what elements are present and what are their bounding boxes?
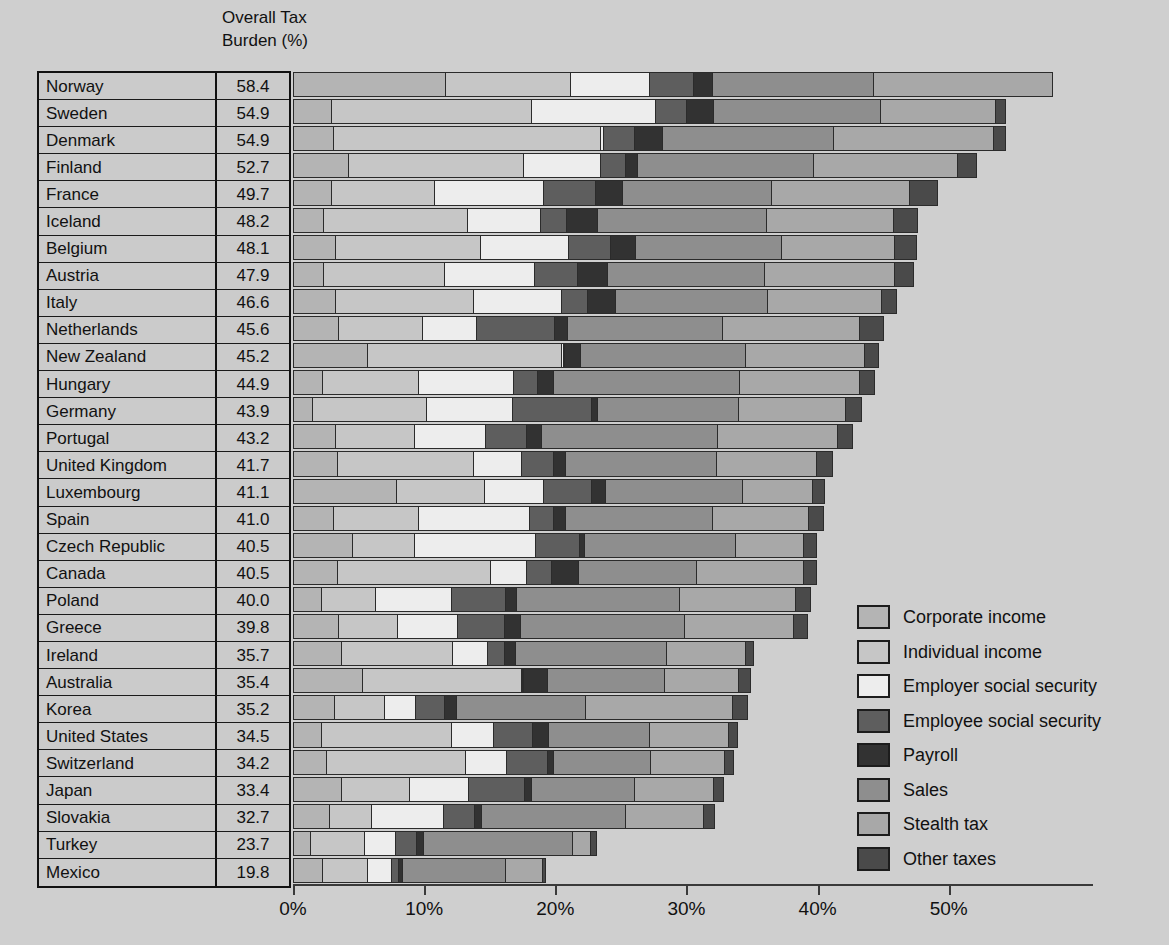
stacked-bar: [293, 641, 753, 666]
bar-segment: [595, 180, 624, 205]
country-name-cell: Denmark: [39, 127, 217, 153]
bar-segment: [803, 560, 817, 585]
bar-segment: [713, 99, 881, 124]
bar-segment: [635, 235, 782, 260]
legend-swatch: [857, 743, 890, 767]
bar-segment: [371, 804, 444, 829]
bar-segment: [418, 506, 529, 531]
bar-segment: [781, 235, 895, 260]
table-row: Hungary44.9: [39, 371, 289, 398]
legend-label: Employee social security: [903, 712, 1101, 730]
bar-segment: [480, 235, 569, 260]
legend-swatch: [857, 640, 890, 664]
axis-tick-label: 40%: [799, 898, 837, 920]
bar-segment: [655, 99, 688, 124]
bar-segment: [513, 370, 538, 395]
bar-segment: [321, 722, 452, 747]
stacked-bar: [293, 208, 917, 233]
country-name-cell: Germany: [39, 398, 217, 424]
stacked-bar: [293, 397, 861, 422]
bar-segment: [293, 587, 322, 612]
stacked-bar: [293, 722, 737, 747]
axis-tick-label: 50%: [930, 898, 968, 920]
bar-segment: [293, 343, 368, 368]
table-row: Japan33.4: [39, 777, 289, 804]
legend-swatch: [857, 847, 890, 871]
stacked-bar: [293, 695, 747, 720]
table-row: Sweden54.9: [39, 100, 289, 127]
legend-item: Employer social security: [857, 669, 1157, 704]
bar-segment: [465, 750, 507, 775]
country-name-cell: Belgium: [39, 236, 217, 262]
legend-swatch: [857, 778, 890, 802]
bar-segment: [331, 99, 532, 124]
axis-tick-label: 20%: [536, 898, 574, 920]
bar-segment: [293, 126, 334, 151]
bar-segment: [515, 641, 667, 666]
stacked-bar: [293, 560, 816, 585]
tax-burden-value-cell: 40.5: [217, 561, 289, 587]
stacked-bar: [293, 99, 1005, 124]
bar-segment: [553, 370, 741, 395]
bar-segment: [322, 858, 368, 883]
tax-burden-value-cell: 41.7: [217, 452, 289, 478]
table-row: United Kingdom41.7: [39, 452, 289, 479]
country-name-cell: Canada: [39, 561, 217, 587]
bar-segment: [293, 479, 397, 504]
tax-burden-value-cell: 49.7: [217, 181, 289, 207]
bar-segment: [476, 316, 555, 341]
bar-segment: [543, 479, 592, 504]
bar-segment: [418, 370, 514, 395]
bar-segment: [565, 451, 717, 476]
bar-segment: [293, 316, 339, 341]
bar-segment: [444, 262, 534, 287]
bar-segment: [742, 479, 813, 504]
stacked-bar: [293, 343, 878, 368]
bar-segment: [335, 424, 415, 449]
bar-segment: [473, 451, 522, 476]
bar-segment: [341, 777, 411, 802]
stacked-bar: [293, 831, 596, 856]
stacked-bar: [293, 858, 545, 883]
bar-segment: [293, 235, 336, 260]
table-row: Portugal43.2: [39, 425, 289, 452]
axis-tick-label: 10%: [405, 898, 443, 920]
tax-burden-value-cell: 33.4: [217, 777, 289, 803]
bar-segment: [532, 722, 549, 747]
bar-segment: [767, 289, 882, 314]
bar-segment: [590, 831, 597, 856]
bar-segment: [422, 316, 477, 341]
country-name-cell: Luxembourg: [39, 479, 217, 505]
country-name-cell: Finland: [39, 154, 217, 180]
bar-segment: [803, 533, 817, 558]
axis-tick: [555, 884, 557, 895]
bar-segment: [894, 235, 916, 260]
bar-segment: [894, 262, 914, 287]
country-name-cell: Japan: [39, 777, 217, 803]
tax-burden-value-cell: 48.1: [217, 236, 289, 262]
bar-segment: [520, 614, 685, 639]
tax-burden-value-cell: 19.8: [217, 859, 289, 886]
table-row: France49.7: [39, 181, 289, 208]
bar-segment: [812, 479, 825, 504]
tax-burden-value-cell: 47.9: [217, 263, 289, 289]
bar-segment: [684, 614, 794, 639]
bar-segment: [468, 777, 524, 802]
bar-segment: [717, 424, 838, 449]
country-name-cell: Switzerland: [39, 750, 217, 776]
bar-segment: [451, 587, 506, 612]
table-row: Austria47.9: [39, 263, 289, 290]
bar-segment: [456, 695, 586, 720]
stacked-bar: [293, 587, 810, 612]
bar-segment: [322, 370, 419, 395]
country-name-cell: Korea: [39, 696, 217, 722]
bar-segment: [521, 451, 554, 476]
bar-segment: [568, 235, 611, 260]
bar-segment: [293, 397, 313, 422]
legend-swatch: [857, 812, 890, 836]
tax-burden-value-cell: 54.9: [217, 127, 289, 153]
tax-burden-value-cell: 23.7: [217, 832, 289, 858]
table-row: Australia35.4: [39, 669, 289, 696]
country-table: Norway58.4Sweden54.9Denmark54.9Finland52…: [37, 71, 291, 888]
bar-segment: [534, 262, 579, 287]
